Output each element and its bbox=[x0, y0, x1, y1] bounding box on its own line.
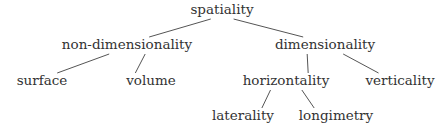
tree-canvas: spatiality non-dimensionality dimensiona… bbox=[0, 0, 446, 134]
edge-spatiality-to-dimensionality bbox=[234, 19, 304, 37]
node-volume: volume bbox=[125, 72, 176, 88]
edge-dimensionality-to-verticality bbox=[343, 54, 378, 73]
edge-horizontality-to-longimetry bbox=[302, 90, 314, 108]
edge-dimensionality-to-horizontality bbox=[307, 54, 308, 73]
node-surface: surface bbox=[17, 72, 68, 88]
edge-spatiality-to-non-dimensionality bbox=[149, 19, 211, 37]
node-horizontality: horizontality bbox=[243, 72, 330, 88]
taxonomy-tree: spatiality non-dimensionality dimensiona… bbox=[0, 0, 446, 134]
node-non-dimensionality: non-dimensionality bbox=[62, 36, 193, 52]
node-spatiality: spatiality bbox=[190, 1, 253, 17]
edge-non-dimensionality-to-surface bbox=[57, 54, 109, 73]
node-longimetry: longimetry bbox=[299, 107, 374, 123]
tree-edges bbox=[57, 19, 378, 108]
node-laterality: laterality bbox=[212, 107, 274, 123]
edge-horizontality-to-laterality bbox=[262, 90, 271, 108]
edge-non-dimensionality-to-volume bbox=[135, 54, 145, 73]
node-verticality: verticality bbox=[364, 72, 434, 88]
node-dimensionality: dimensionality bbox=[275, 36, 376, 52]
tree-labels: spatiality non-dimensionality dimensiona… bbox=[17, 1, 435, 123]
